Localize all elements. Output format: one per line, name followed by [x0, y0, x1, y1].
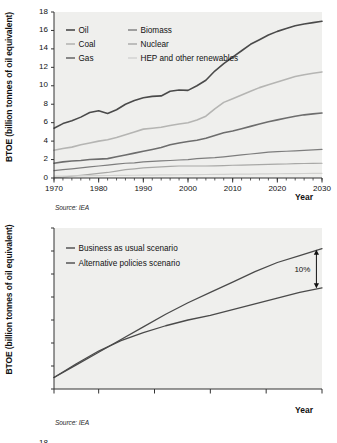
top-chart-figure: BTOE (billion tonnes of oil equivalent) … [0, 0, 337, 215]
bottom-chart-plot: Business as usual scenarioAlternative po… [0, 215, 337, 443]
legend-label: Biomass [141, 26, 172, 35]
y-tick-label: 4 [22, 136, 48, 145]
y-tick-label: 16 [22, 25, 48, 34]
bottom-chart-shell: BTOE (billion tonnes of oil equivalent) … [0, 215, 337, 443]
x-tick-label: 1980 [79, 184, 119, 193]
y-tick-label: 10 [22, 80, 48, 89]
top-chart-x-axis-title: Year [295, 192, 313, 202]
legend-label: Alternative policies scenario [79, 259, 181, 268]
y-tick-label: 2 [22, 154, 48, 163]
y-tick-label: 18 [22, 438, 48, 443]
y-tick-label: 14 [22, 43, 48, 52]
y-tick-label: 12 [22, 62, 48, 71]
y-tick-label: 8 [22, 99, 48, 108]
x-tick-label: 1990 [123, 184, 163, 193]
legend-label: Oil [79, 26, 89, 35]
legend-label: HEP and other renewables [141, 54, 239, 63]
top-chart-plot: OilCoalGasBiomassNuclearHEP and other re… [0, 0, 337, 215]
y-tick-label: 18 [22, 7, 48, 16]
plot-background [54, 12, 322, 178]
x-tick-label: 2030 [302, 184, 337, 193]
bottom-chart-x-axis-title: Year [295, 405, 313, 415]
bottom-chart-figure: BTOE (billion tonnes of oil equivalent) … [0, 215, 337, 443]
legend-label: Business as usual scenario [79, 244, 179, 253]
annotation-label: 10% [294, 265, 310, 274]
top-chart-source: Source: IEA [55, 204, 89, 211]
x-tick-label: 2000 [168, 184, 208, 193]
x-tick-label: 2010 [213, 184, 253, 193]
legend-label: Gas [79, 54, 94, 63]
x-tick-label: 2020 [257, 184, 297, 193]
legend-label: Coal [79, 40, 96, 49]
y-tick-label: 0 [22, 173, 48, 182]
legend-label: Nuclear [141, 40, 169, 49]
top-chart-shell: BTOE (billion tonnes of oil equivalent) … [0, 0, 337, 215]
bottom-chart-source: Source: IEA [55, 419, 89, 426]
y-tick-label: 6 [22, 117, 48, 126]
x-tick-label: 1970 [34, 184, 74, 193]
